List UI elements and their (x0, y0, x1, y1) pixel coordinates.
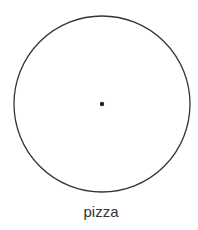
circle-label: pizza (0, 203, 198, 220)
circle-diagram (0, 0, 198, 230)
center-dot (100, 102, 104, 106)
